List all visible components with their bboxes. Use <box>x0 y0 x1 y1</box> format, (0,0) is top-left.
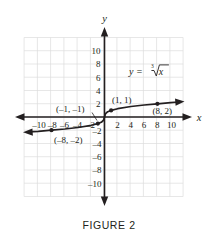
point-label-1-1: (1, 1) <box>112 95 132 105</box>
radicand: x <box>158 66 164 77</box>
x-tick-label: 6 <box>142 120 147 130</box>
x-axis-arrow-right <box>183 113 193 120</box>
x-tick-label: 10 <box>167 120 177 130</box>
y-tick-label: –4 <box>92 139 103 149</box>
y-tick-label: 8 <box>96 59 101 69</box>
y-axis-arrow-up <box>101 27 108 37</box>
y-tick-label: 6 <box>96 73 101 83</box>
y-tick-label: 10 <box>92 46 102 56</box>
figure-caption: FIGURE 2 <box>0 219 218 231</box>
x-tick-label: –10 <box>31 120 46 130</box>
data-point-dot <box>109 108 113 112</box>
point-label-neg1-neg1: (–1, –1) <box>56 104 85 114</box>
y-tick-label: –2 <box>92 126 102 136</box>
y-axis-label: y <box>101 13 107 24</box>
x-tick-label: 2 <box>115 120 120 130</box>
point-label-8-2: (8, 2) <box>153 106 173 116</box>
y-axis-arrow-down <box>101 197 108 207</box>
x-axis-arrow-left <box>15 113 25 120</box>
x-tick-label: –8 <box>47 120 58 130</box>
data-point-dot <box>96 122 100 126</box>
y-tick-label: 4 <box>96 86 101 96</box>
y-tick-label: –8 <box>92 165 103 175</box>
curve-arrow-left <box>23 128 33 135</box>
equation-label: y = 3 x <box>128 63 169 77</box>
y-tick-label: 2 <box>96 99 101 109</box>
equation-lhs: y = <box>128 66 143 77</box>
figure-container: y x –10 –8 –6 –4 –2 2 4 6 8 10 10 8 6 4 … <box>0 0 218 239</box>
x-axis-label: x <box>196 112 202 123</box>
cube-root-graph: y x –10 –8 –6 –4 –2 2 4 6 8 10 10 8 6 4 … <box>0 0 218 239</box>
x-tick-label: 4 <box>129 120 134 130</box>
point-label-neg8-neg2: (–8, –2) <box>54 135 83 145</box>
y-tick-label: –6 <box>92 152 103 162</box>
data-point-dot <box>49 128 53 132</box>
radical-index: 3 <box>151 63 154 69</box>
y-tick-label: –10 <box>87 179 102 189</box>
x-tick-label: 8 <box>155 120 160 130</box>
